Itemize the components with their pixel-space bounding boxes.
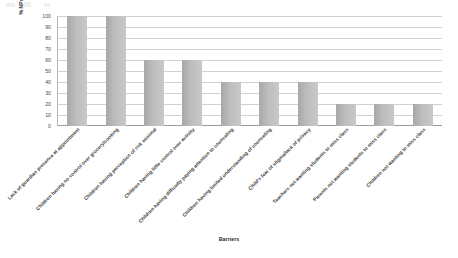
y-axis-tick-label: 50 — [45, 68, 51, 74]
y-axis-tick-label: 90 — [45, 24, 51, 30]
bar[interactable] — [106, 16, 126, 126]
x-axis-category-labels: Lack of guardian presence at appointment… — [58, 127, 442, 227]
x-axis-category-label-text: Lack of guardian presence at appointment — [7, 127, 81, 201]
scan-artifact — [44, 3, 50, 7]
bar-chart-figure: % NPs That Agree That Each is Barrier 10… — [0, 0, 458, 258]
x-axis-category-label-text: Child's fear of stigma/lack of privacy — [247, 127, 312, 192]
y-axis-tick-label: 0 — [48, 123, 51, 129]
x-axis-category-label-text: Children having no control over grocery/… — [35, 127, 120, 212]
y-axis-tick-label: 30 — [45, 90, 51, 96]
x-axis-category-label-text: Children having perception of risk minim… — [83, 127, 158, 202]
y-axis-tick-label: 100 — [42, 13, 51, 19]
y-axis-tick-label: 10 — [45, 112, 51, 118]
y-axis-tick-label: 20 — [45, 101, 51, 107]
x-axis-category-label-text: Children having little control over acti… — [124, 127, 197, 200]
y-axis-tick-label: 40 — [45, 79, 51, 85]
y-axis-tick-labels: 1009080706050403020100 — [0, 16, 54, 126]
bar[interactable] — [67, 16, 87, 126]
y-axis-tick-label: 70 — [45, 46, 51, 52]
x-axis-category-label-text: Children having limited understanding of… — [182, 127, 274, 219]
x-axis-category-label-text: Teachers not wanting students to miss cl… — [272, 127, 350, 205]
y-axis-tick-label: 80 — [45, 35, 51, 41]
x-axis-category-label-text: Parents not wanting students to miss cla… — [313, 127, 389, 203]
x-axis-title: Barriers — [0, 236, 458, 242]
y-axis-tick-label: 60 — [45, 57, 51, 63]
bar-slot — [58, 16, 96, 126]
